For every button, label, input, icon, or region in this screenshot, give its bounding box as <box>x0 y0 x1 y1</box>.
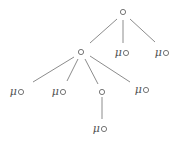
tree-node-n2: μ <box>115 46 129 59</box>
node-circle-icon <box>60 89 65 94</box>
tree-edge-n1-n7 <box>90 56 130 82</box>
mu-label: μ <box>135 83 142 96</box>
tree-node-n3: μ <box>155 46 169 59</box>
tree-edge-root-n1 <box>90 19 117 43</box>
node-circle-icon <box>163 50 168 55</box>
tree-edge-root-n3 <box>130 19 155 42</box>
tree-node-n8: μ <box>93 122 107 135</box>
mu-label: μ <box>52 85 59 98</box>
node-circle-icon <box>18 89 23 94</box>
node-circle-icon <box>101 126 106 131</box>
node-circle-icon <box>78 49 83 54</box>
tree-node-n1 <box>78 49 83 54</box>
tree-node-n6 <box>99 89 104 94</box>
tree-diagram: μμμμμμ <box>0 0 178 147</box>
mu-label: μ <box>10 85 17 98</box>
mu-label: μ <box>115 46 122 59</box>
tree-node-n4: μ <box>10 85 24 98</box>
node-circle-icon <box>99 89 104 94</box>
tree-node-root <box>120 9 125 14</box>
tree-edge-n1-n6 <box>85 59 98 84</box>
tree-nodes: μμμμμμ <box>10 9 169 135</box>
mu-label: μ <box>155 46 162 59</box>
node-circle-icon <box>143 87 148 92</box>
tree-node-n5: μ <box>52 85 66 98</box>
tree-node-n7: μ <box>135 83 149 96</box>
node-circle-icon <box>123 50 128 55</box>
mu-label: μ <box>93 122 100 135</box>
node-circle-icon <box>120 9 125 14</box>
tree-edges <box>33 19 155 119</box>
tree-edge-n1-n5 <box>67 59 78 81</box>
